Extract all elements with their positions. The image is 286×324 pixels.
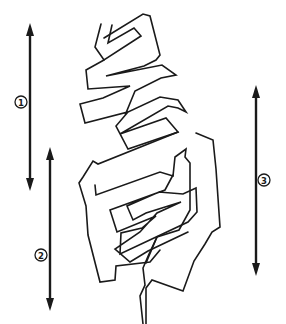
arrow-down-icon (252, 263, 260, 276)
arrow-up-icon (46, 147, 54, 160)
arrow-1: 1 (15, 23, 34, 191)
label-1-text: 1 (18, 98, 24, 108)
coiled-structure (79, 14, 220, 324)
coil-outer-right-edge (146, 133, 220, 324)
diagram-canvas: 1 2 3 (0, 0, 286, 324)
arrow-up-icon (252, 85, 260, 98)
coil-upper-loops (80, 14, 186, 149)
arrow-3: 3 (252, 85, 270, 276)
label-3-text: 3 (261, 176, 267, 186)
arrow-down-icon (26, 178, 34, 191)
coil-lower-zigzags (110, 175, 197, 262)
label-2-text: 2 (38, 251, 44, 261)
arrow-2: 2 (35, 147, 54, 311)
arrow-down-icon (46, 298, 54, 311)
arrow-up-icon (26, 23, 34, 36)
coil-lower-inner-loops (95, 149, 190, 263)
